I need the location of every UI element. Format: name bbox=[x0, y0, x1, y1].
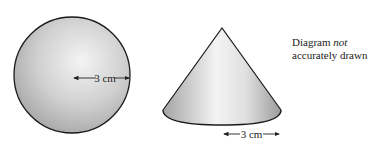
sphere-radius-label: 3 cm bbox=[94, 72, 116, 84]
accuracy-note-line-1: Diagram not bbox=[292, 36, 367, 49]
cone: 3 cm bbox=[163, 28, 281, 140]
diagram-canvas: 3 cm 3 cm bbox=[0, 0, 374, 144]
cone-body bbox=[163, 28, 281, 125]
note-prefix: Diagram bbox=[292, 36, 333, 48]
accuracy-note: Diagram not accurately drawn bbox=[292, 36, 367, 62]
note-emphasis: not bbox=[333, 36, 347, 48]
accuracy-note-line-2: accurately drawn bbox=[292, 49, 367, 62]
cone-radius-label: 3 cm bbox=[241, 128, 263, 140]
sphere: 3 cm bbox=[14, 17, 130, 133]
